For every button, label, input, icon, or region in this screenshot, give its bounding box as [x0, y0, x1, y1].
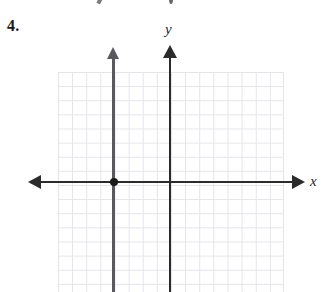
x-axis-left-arrow-icon [28, 175, 41, 189]
plotted-line-top-arrow-icon [107, 47, 119, 59]
y-axis-label: y [165, 21, 172, 38]
problem-number-label: 4. [7, 17, 19, 35]
y-axis [169, 54, 171, 292]
x-axis-label: x [310, 173, 317, 190]
x-intercept-point [110, 178, 118, 186]
x-axis-right-arrow-icon [292, 175, 305, 189]
x-axis [34, 181, 300, 183]
top-edge-ink-remnant-left [96, 0, 103, 4]
y-axis-top-arrow-icon [163, 45, 177, 58]
graph-figure: 4. y x [0, 0, 321, 292]
top-edge-ink-remnant-right [169, 0, 173, 4]
plotted-vertical-line [112, 56, 115, 292]
